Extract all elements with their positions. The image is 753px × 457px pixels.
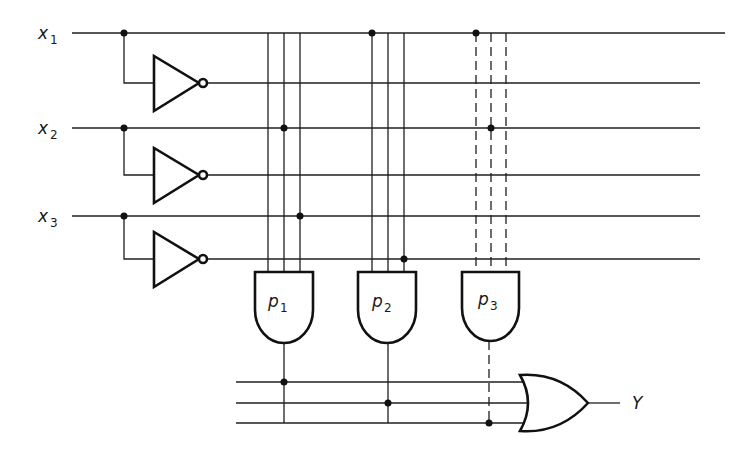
branch-x1 (124, 33, 153, 83)
input-label-x2: x 2 (37, 118, 58, 142)
branch-x2 (124, 128, 153, 175)
junction-dot (121, 30, 128, 37)
p2-input-columns (369, 30, 408, 273)
branch-x3 (124, 216, 153, 259)
connection-dot (369, 30, 376, 37)
inverter-x1 (154, 56, 207, 111)
input-label-x1: x 1 (37, 23, 58, 47)
connection-dot (486, 420, 493, 427)
and-gate-p2: p 2 (358, 272, 416, 343)
connection-dot (473, 30, 480, 37)
connection-dot (281, 125, 288, 132)
p3-input-columns (473, 30, 507, 273)
connection-dot (401, 256, 408, 263)
svg-text:2: 2 (50, 128, 58, 142)
svg-text:2: 2 (384, 301, 392, 315)
and-gate-p3: p 3 (462, 272, 519, 341)
output-label-y: Y (632, 393, 644, 413)
connection-dot (281, 379, 288, 386)
or-gate (520, 375, 588, 432)
svg-text:p: p (267, 291, 279, 311)
svg-text:p: p (371, 291, 383, 311)
svg-text:1: 1 (50, 33, 58, 47)
svg-text:3: 3 (50, 216, 58, 230)
svg-text:x: x (37, 118, 49, 138)
connection-dot (297, 213, 304, 220)
svg-text:x: x (37, 206, 49, 226)
svg-text:x: x (37, 23, 49, 43)
inverter-x2 (154, 148, 207, 203)
junction-dot (121, 213, 128, 220)
svg-text:3: 3 (490, 299, 498, 313)
inverter-x3 (154, 232, 207, 287)
junction-dot (121, 125, 128, 132)
connection-dot (488, 125, 495, 132)
connection-dot (385, 400, 392, 407)
input-label-x3: x 3 (37, 206, 58, 230)
p1-input-columns (268, 33, 304, 272)
and-gate-p1: p 1 (255, 272, 313, 343)
svg-text:p: p (477, 289, 489, 309)
pla-diagram: x 1 x 2 x 3 (0, 0, 753, 457)
svg-text:1: 1 (280, 301, 288, 315)
